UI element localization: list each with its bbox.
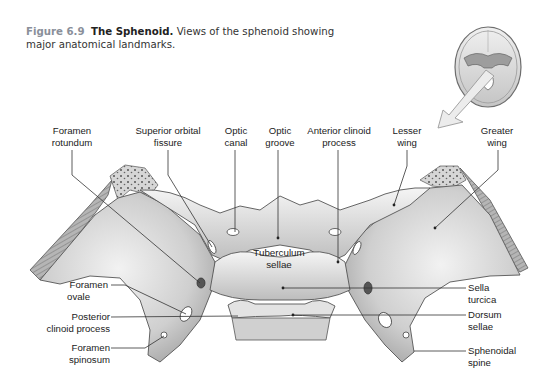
skull-inset bbox=[438, 27, 521, 128]
label-lesser-wing: Lesserwing bbox=[393, 125, 422, 149]
label-foramen-spinosum: Foramenspinosum bbox=[69, 342, 110, 366]
label-foramen-rotundum: Foramenrotundum bbox=[52, 125, 93, 149]
label-dorsum-sellae: Dorsumsellae bbox=[468, 309, 502, 333]
label-greater-wing: Greaterwing bbox=[481, 125, 514, 149]
label-optic-canal: Opticcanal bbox=[225, 125, 248, 149]
label-tuberculum-sellae: Tuberculumsellae bbox=[253, 247, 304, 271]
label-optic-groove: Opticgroove bbox=[265, 125, 294, 149]
label-sella-turcica: Sellaturcica bbox=[468, 282, 496, 306]
label-superior-orbital-fissure: Superior orbitalfissure bbox=[135, 125, 200, 149]
label-anterior-clinoid-process: Anterior clinoidprocess bbox=[307, 125, 370, 149]
label-foramen-ovale: Foramenovale bbox=[67, 279, 108, 303]
label-sphenoidal-spine: Sphenoidalspine bbox=[468, 345, 516, 369]
label-posterior-clinoid-process: Posteriorclinoid process bbox=[47, 311, 110, 335]
